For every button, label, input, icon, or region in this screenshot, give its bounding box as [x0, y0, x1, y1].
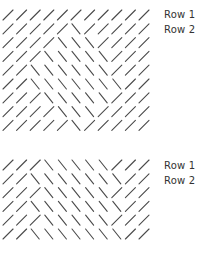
- forward-stitch: [30, 215, 40, 225]
- back-stitch: [31, 79, 39, 89]
- forward-stitch: [139, 38, 149, 48]
- back-stitch: [58, 160, 66, 170]
- forward-stitch: [3, 107, 13, 117]
- forward-stitch: [3, 160, 13, 170]
- forward-stitch: [85, 120, 95, 130]
- back-stitch: [99, 201, 107, 211]
- back-stitch: [58, 174, 66, 184]
- forward-stitch: [57, 10, 67, 20]
- back-stitch: [99, 51, 107, 61]
- forward-stitch: [3, 79, 13, 89]
- back-stitch: [113, 174, 121, 184]
- back-stitch: [86, 51, 94, 61]
- forward-stitch: [17, 201, 27, 211]
- forward-stitch: [85, 10, 95, 20]
- forward-stitch: [30, 93, 40, 103]
- forward-stitch: [139, 201, 149, 211]
- back-stitch: [31, 201, 39, 211]
- back-stitch: [86, 38, 94, 48]
- back-stitch: [86, 174, 94, 184]
- forward-stitch: [30, 188, 40, 198]
- forward-stitch: [98, 24, 108, 34]
- back-stitch: [72, 65, 80, 75]
- forward-stitch: [30, 10, 40, 20]
- back-stitch: [58, 201, 66, 211]
- forward-stitch: [125, 120, 135, 130]
- forward-stitch: [139, 160, 149, 170]
- forward-stitch: [85, 24, 95, 34]
- forward-stitch: [17, 215, 27, 225]
- forward-stitch: [98, 10, 108, 20]
- back-stitch: [72, 51, 80, 61]
- back-stitch: [72, 38, 80, 48]
- forward-stitch: [125, 51, 135, 61]
- back-stitch: [86, 201, 94, 211]
- back-stitch: [86, 107, 94, 117]
- back-stitch: [99, 229, 107, 239]
- back-stitch: [86, 215, 94, 225]
- forward-stitch: [125, 10, 135, 20]
- forward-stitch: [17, 79, 27, 89]
- back-stitch: [58, 188, 66, 198]
- forward-stitch: [17, 174, 27, 184]
- forward-stitch: [3, 38, 13, 48]
- back-stitch: [58, 229, 66, 239]
- back-stitch: [31, 65, 39, 75]
- forward-stitch: [125, 160, 135, 170]
- forward-stitch: [17, 38, 27, 48]
- forward-stitch: [139, 120, 149, 130]
- back-stitch: [72, 215, 80, 225]
- forward-stitch: [98, 107, 108, 117]
- back-stitch: [58, 79, 66, 89]
- forward-stitch: [112, 24, 122, 34]
- forward-stitch: [112, 160, 122, 170]
- forward-stitch: [17, 160, 27, 170]
- forward-stitch: [112, 215, 122, 225]
- forward-stitch: [112, 188, 122, 198]
- forward-stitch: [30, 107, 40, 117]
- back-stitch: [72, 107, 80, 117]
- forward-stitch: [125, 215, 135, 225]
- back-stitch: [99, 215, 107, 225]
- forward-stitch: [3, 51, 13, 61]
- back-stitch: [45, 65, 53, 75]
- bottom-row-2-label: Row 2: [164, 175, 195, 186]
- back-stitch: [45, 229, 53, 239]
- forward-stitch: [139, 51, 149, 61]
- forward-stitch: [30, 51, 40, 61]
- back-stitch: [72, 120, 80, 130]
- forward-stitch: [125, 229, 135, 239]
- forward-stitch: [112, 120, 122, 130]
- back-stitch: [99, 79, 107, 89]
- back-stitch: [86, 93, 94, 103]
- forward-stitch: [139, 174, 149, 184]
- forward-stitch: [139, 107, 149, 117]
- forward-stitch: [44, 38, 54, 48]
- back-stitch: [45, 79, 53, 89]
- forward-stitch: [44, 10, 54, 20]
- forward-stitch: [125, 93, 135, 103]
- back-stitch: [72, 79, 80, 89]
- forward-stitch: [125, 174, 135, 184]
- forward-stitch: [112, 51, 122, 61]
- forward-stitch: [112, 93, 122, 103]
- forward-stitch: [3, 174, 13, 184]
- back-stitch: [113, 79, 121, 89]
- forward-stitch: [30, 24, 40, 34]
- forward-stitch: [3, 24, 13, 34]
- back-stitch: [86, 160, 94, 170]
- forward-stitch: [112, 107, 122, 117]
- back-stitch: [99, 174, 107, 184]
- forward-stitch: [17, 24, 27, 34]
- forward-stitch: [139, 24, 149, 34]
- forward-stitch: [57, 24, 67, 34]
- forward-stitch: [98, 120, 108, 130]
- bottom-stitch-grid: [0, 158, 200, 247]
- forward-stitch: [139, 188, 149, 198]
- forward-stitch: [112, 10, 122, 20]
- forward-stitch: [3, 215, 13, 225]
- forward-stitch: [17, 65, 27, 75]
- forward-stitch: [125, 24, 135, 34]
- back-stitch: [45, 215, 53, 225]
- forward-stitch: [17, 120, 27, 130]
